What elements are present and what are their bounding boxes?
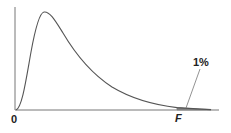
annotation-leader-line (186, 69, 200, 108)
density-curve (16, 12, 211, 110)
critical-value-label: F (175, 113, 182, 124)
tail-area-label: 1% (193, 57, 209, 68)
origin-label: 0 (11, 114, 17, 125)
